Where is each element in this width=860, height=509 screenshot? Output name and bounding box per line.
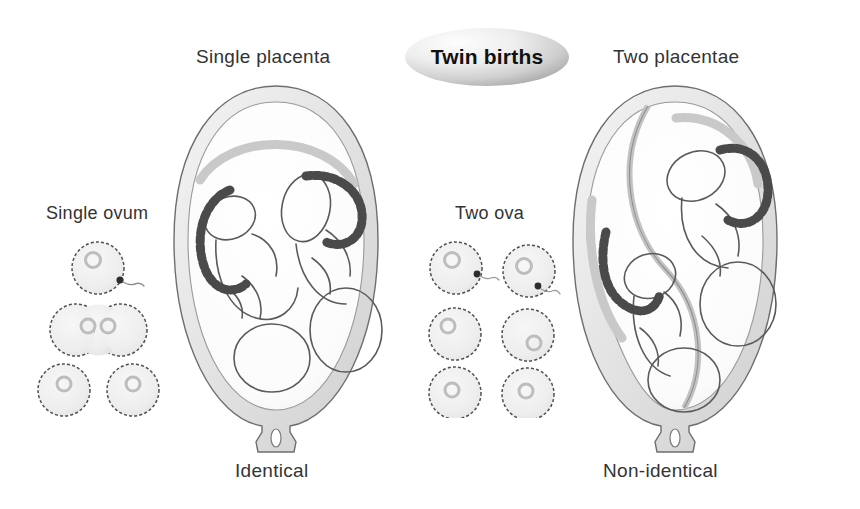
zygote-cell-b xyxy=(502,309,554,361)
ova-stage-2 xyxy=(429,308,554,361)
zygote-cell-a xyxy=(429,308,481,360)
embryo-cell-a xyxy=(429,367,481,418)
sperm-tail-icon-a xyxy=(480,276,499,280)
ova-stage-3 xyxy=(429,367,554,418)
cervix-opening xyxy=(670,429,680,447)
ovum-cell xyxy=(72,242,124,294)
embryo-cell-b xyxy=(502,368,554,418)
label-single-placenta: Single placenta xyxy=(196,46,330,68)
ova-stage-1 xyxy=(430,242,560,297)
label-two-ova: Two ova xyxy=(455,203,524,224)
sperm-tail-icon xyxy=(123,282,144,286)
ovum-stage-3 xyxy=(38,364,159,416)
uterus-identical-twins xyxy=(160,80,392,458)
title-badge: Twin births xyxy=(404,27,570,87)
label-non-identical: Non-identical xyxy=(603,460,718,482)
ovum-stage-2 xyxy=(50,304,147,356)
sperm-head-icon xyxy=(116,276,123,283)
sperm-head-icon-b xyxy=(535,283,542,290)
title-ellipse-icon xyxy=(404,27,570,87)
twin-births-diagram: Twin births Single placenta Two placenta… xyxy=(0,0,860,509)
cervix-opening xyxy=(271,429,281,447)
sperm-head-icon-a xyxy=(474,271,481,278)
label-identical: Identical xyxy=(235,460,308,482)
label-single-ovum: Single ovum xyxy=(46,203,148,224)
label-two-placentae: Two placentae xyxy=(613,46,739,68)
uterus-non-identical-twins xyxy=(556,80,794,458)
ovum-stage-1 xyxy=(72,242,144,294)
